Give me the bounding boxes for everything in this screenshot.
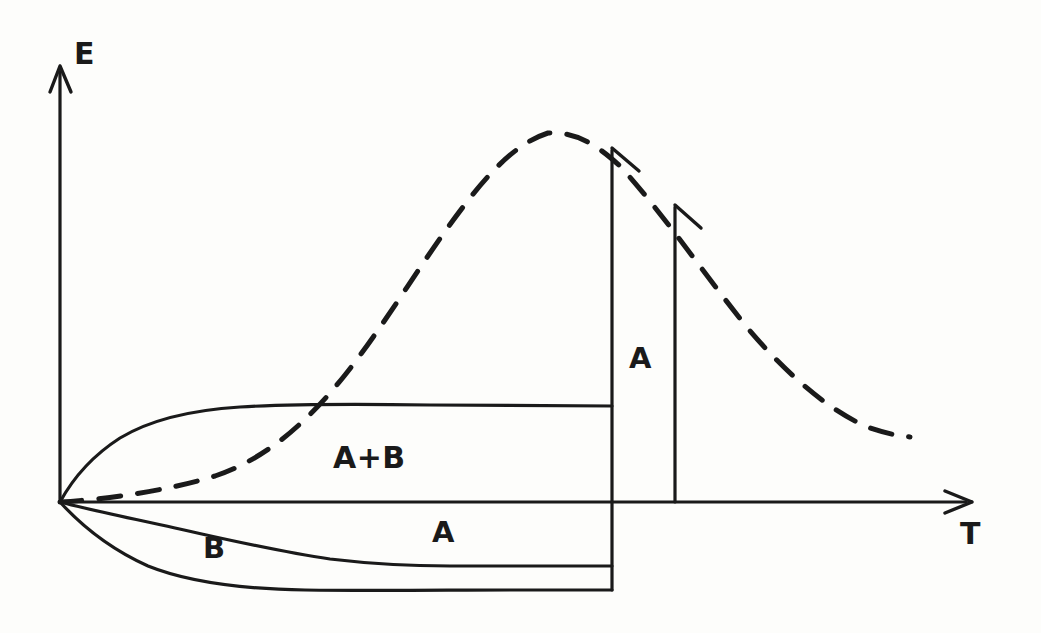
bracket-label-a: A	[629, 341, 652, 375]
region-label-b-lower: B	[203, 531, 226, 565]
y-axis	[50, 66, 71, 502]
dashed-bell-curve	[60, 133, 910, 502]
figure-root: E T A+B A A B	[0, 0, 1041, 633]
sketch-canvas	[0, 0, 1041, 633]
lower-middle-curve	[60, 502, 612, 566]
x-axis-label: T	[960, 516, 981, 551]
right-bracket-arrowhead-icon	[675, 205, 701, 228]
y-axis-label: E	[74, 36, 95, 71]
lower-outer-curve	[60, 502, 612, 590]
region-label-a-plus-b: A+B	[333, 440, 406, 475]
x-axis	[60, 491, 972, 513]
region-label-a-lower: A	[432, 515, 455, 549]
